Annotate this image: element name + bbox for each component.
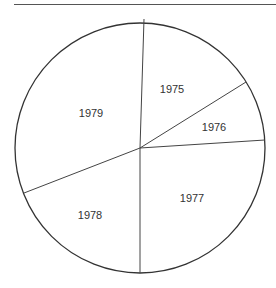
slice-label-1977: 1977 xyxy=(180,192,204,204)
slice-label-1976: 1976 xyxy=(202,121,226,133)
slice-label-1978: 1978 xyxy=(78,209,102,221)
slice-label-1975: 1975 xyxy=(160,83,184,95)
slice-label-1979: 1979 xyxy=(79,107,103,119)
pie-chart xyxy=(0,0,276,288)
